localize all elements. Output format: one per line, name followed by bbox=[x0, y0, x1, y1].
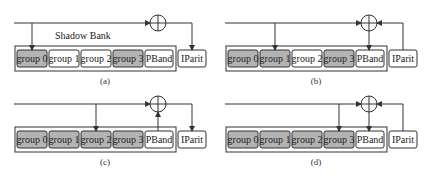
iparit-label: IParit bbox=[392, 134, 414, 145]
group-3-label: group 3 bbox=[113, 134, 144, 145]
pband-label: PBand bbox=[146, 134, 173, 145]
group-0-label: group 0 bbox=[228, 53, 259, 64]
panel-c: group 0group 1group 2group 3PBandIParit(… bbox=[14, 96, 206, 167]
group-0-label: group 0 bbox=[228, 134, 259, 145]
group-1-label: group 1 bbox=[49, 134, 80, 145]
caption-a: (a) bbox=[100, 76, 110, 86]
shadow-bank-label: Shadow Bank bbox=[55, 30, 111, 41]
panel-d: group 0group 1group 2group 3PBandIParit(… bbox=[225, 96, 417, 167]
group-2-label: group 2 bbox=[81, 134, 112, 145]
shadow-bank-parity-diagram: Shadow Bankgroup 0group 1group 2group 3P… bbox=[0, 0, 428, 179]
caption-b: (b) bbox=[311, 76, 322, 86]
group-3-label: group 3 bbox=[324, 53, 355, 64]
group-3-label: group 3 bbox=[113, 53, 144, 64]
group-2-label: group 2 bbox=[81, 53, 112, 64]
group-2-label: group 2 bbox=[292, 53, 323, 64]
group-1-label: group 1 bbox=[260, 134, 291, 145]
group-0-label: group 0 bbox=[17, 53, 48, 64]
pband-label: PBand bbox=[146, 53, 173, 64]
iparit-label: IParit bbox=[181, 134, 203, 145]
group-1-label: group 1 bbox=[49, 53, 80, 64]
panel-a: Shadow Bankgroup 0group 1group 2group 3P… bbox=[14, 15, 206, 86]
group-0-label: group 0 bbox=[17, 134, 48, 145]
iparit-label: IParit bbox=[181, 53, 203, 64]
panel-b: group 0group 1group 2group 3PBandIParit(… bbox=[225, 15, 417, 86]
pband-label: PBand bbox=[357, 134, 384, 145]
group-3-label: group 3 bbox=[324, 134, 355, 145]
caption-d: (d) bbox=[311, 157, 322, 167]
group-1-label: group 1 bbox=[260, 53, 291, 64]
caption-c: (c) bbox=[100, 157, 110, 167]
group-2-label: group 2 bbox=[292, 134, 323, 145]
iparit-label: IParit bbox=[392, 53, 414, 64]
pband-label: PBand bbox=[357, 53, 384, 64]
